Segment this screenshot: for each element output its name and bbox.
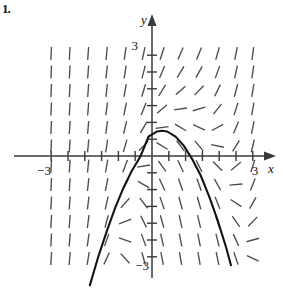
- y-max-tick-label: 3: [132, 38, 139, 53]
- y-min-tick-label: −3: [135, 258, 149, 273]
- solution-curve-path: [90, 131, 231, 286]
- plot-canvas: y x 3 −3 −3 3: [0, 0, 283, 289]
- x-max-tick-label: 3: [252, 163, 259, 178]
- x-axis-label: x: [267, 161, 274, 176]
- slope-field-figure: 1. y x 3 −3 −3 3: [0, 0, 283, 289]
- y-axis-label: y: [139, 12, 147, 27]
- x-min-tick-label: −3: [37, 163, 51, 178]
